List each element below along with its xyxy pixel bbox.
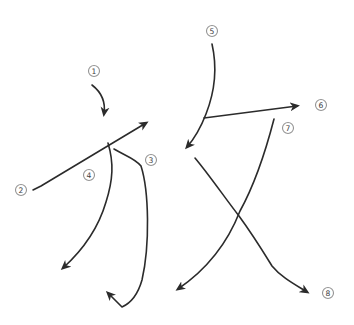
stroke-5-arrow	[187, 44, 215, 147]
stroke-4-arrow	[63, 143, 112, 268]
stroke-8-badge: 8	[323, 288, 334, 299]
stroke-1-arrow	[92, 85, 104, 114]
stroke-7-arrow	[178, 119, 274, 289]
stroke-5-badge: 5	[207, 26, 218, 37]
stroke-5-badge-number: 5	[210, 27, 215, 36]
stroke-6-badge-number: 6	[319, 101, 324, 110]
stroke-3-arrow	[108, 149, 148, 307]
stroke-7-badge-number: 7	[286, 124, 291, 133]
stroke-1-badge: 1	[89, 66, 100, 77]
stroke-order-diagram: 1 2 3 4 5 6 7 8	[0, 0, 354, 325]
stroke-3-badge: 3	[146, 155, 157, 166]
stroke-7-badge: 7	[283, 123, 294, 134]
stroke-1-badge-number: 1	[92, 67, 97, 76]
stroke-2-badge-number: 2	[19, 186, 24, 195]
stroke-8-arrow	[195, 158, 307, 292]
diagram-svg: 1 2 3 4 5 6 7 8	[0, 0, 354, 325]
stroke-4-badge: 4	[84, 170, 95, 181]
stroke-8-badge-number: 8	[326, 289, 331, 298]
stroke-6-arrow	[204, 106, 297, 118]
stroke-3-badge-number: 3	[149, 156, 154, 165]
stroke-6-badge: 6	[316, 100, 327, 111]
stroke-2-badge: 2	[16, 185, 27, 196]
stroke-4-badge-number: 4	[87, 171, 92, 180]
